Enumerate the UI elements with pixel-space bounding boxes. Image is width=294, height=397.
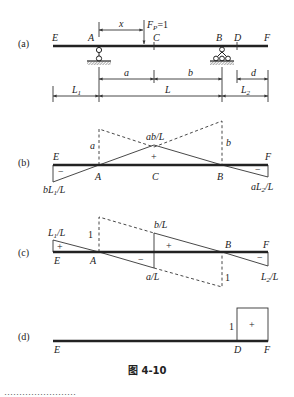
c-point-e: E (53, 255, 60, 266)
dim-l1-label: L1 (71, 84, 81, 97)
c-point-a: A (89, 255, 97, 266)
d-point-e: E (53, 344, 60, 355)
dim-l-label: L (164, 84, 171, 95)
c-sign-left: + (57, 241, 63, 252)
panel-b-tag: (b) (18, 157, 30, 169)
panel-d: (d) 1 + E D F (18, 308, 271, 355)
b-label-b: b (226, 137, 231, 148)
b-label-right: aL2/L (251, 181, 274, 194)
b-sign-right: − (255, 164, 261, 175)
panel-c-tag: (c) (18, 247, 29, 259)
c-sign-mid-neg: − (138, 254, 144, 265)
panel-c: (c) E A B F 1 1 b/L a/L L1/L L2/L + − + … (18, 217, 279, 287)
b-point-e: E (52, 151, 59, 162)
point-d: D (233, 32, 242, 43)
b-label-a: a (90, 140, 95, 151)
pin-support-icon (87, 47, 111, 65)
figure-4-10: (a) E A C B D F FP=1 (0, 0, 294, 397)
d-label-one: 1 (229, 321, 234, 332)
influence-line-c (53, 233, 268, 268)
dashed-top (99, 217, 154, 252)
cut-off-body-text: …………………… (4, 387, 76, 397)
b-label-left: bL1/L (43, 184, 66, 197)
c-label-right: L2/L (260, 271, 279, 284)
b-sign-mid: + (151, 151, 157, 162)
d-point-f: F (263, 344, 271, 355)
dashed-bottom (154, 252, 222, 287)
panel-a: (a) E A C B D F FP=1 (18, 18, 271, 102)
load-label: FP=1 (146, 19, 168, 32)
c-label-b-over-l: b/L (154, 219, 168, 230)
point-f: F (263, 32, 271, 43)
c-label-one-a: 1 (88, 229, 93, 240)
figure-caption: 图 4-10 (128, 365, 167, 376)
panel-a-tag: (a) (18, 38, 29, 50)
c-sign-right: − (257, 252, 263, 263)
b-point-a: A (94, 171, 102, 182)
b-point-c: C (152, 171, 159, 182)
d-sign-box: + (249, 319, 255, 330)
dim-b-label: b (188, 67, 193, 78)
b-label-ab-over-l: ab/L (146, 131, 165, 142)
c-point-f: F (262, 239, 270, 250)
c-label-a-over-l: a/L (146, 271, 160, 282)
point-b: B (216, 32, 222, 43)
dashed-right (154, 121, 222, 165)
roller-support-icon (210, 47, 234, 65)
b-point-f: F (264, 151, 272, 162)
panel-b: (b) E A C B F a b ab/L bL1/L aL2/L − + − (18, 121, 274, 197)
x-label: x (118, 18, 124, 29)
d-point-d: D (233, 344, 242, 355)
dim-l2-label: L2 (240, 84, 251, 97)
dim-a-label: a (124, 67, 129, 78)
c-sign-mid-pos: + (166, 240, 172, 251)
c-label-left: L1/L (47, 227, 66, 240)
point-e: E (51, 32, 58, 43)
dim-d-label: d (251, 67, 257, 78)
c-point-b: B (225, 239, 231, 250)
influence-line-b (53, 145, 268, 182)
c-label-one-b: 1 (225, 272, 230, 283)
point-c: C (153, 32, 160, 43)
panel-d-tag: (d) (18, 331, 30, 343)
point-a: A (87, 32, 95, 43)
b-point-b: B (217, 171, 223, 182)
b-sign-left: − (58, 166, 64, 177)
